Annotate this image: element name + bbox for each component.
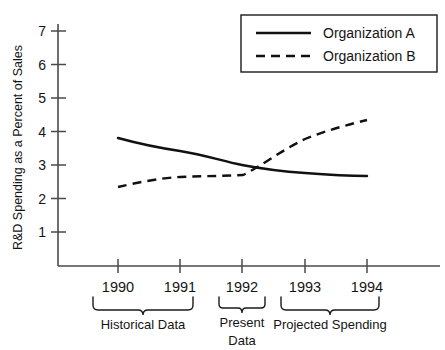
group-annotation-present: Present Data — [219, 297, 265, 348]
brace-projected-icon — [281, 297, 379, 315]
y-tick-label-2: 2 — [38, 191, 46, 207]
group-label-historical: Historical Data — [101, 317, 186, 332]
x-tick-label-1993: 1993 — [289, 279, 321, 295]
group-label-present-line2: Data — [228, 333, 256, 348]
series-line-organization-b — [118, 120, 367, 187]
group-label-projected: Projected Spending — [273, 317, 386, 332]
legend-label-organization-a: Organization A — [323, 25, 415, 41]
chart-container: R&D Spending as a Percent of Sales 7 6 5… — [0, 0, 445, 350]
y-tick-label-3: 3 — [38, 157, 46, 173]
y-tick-label-6: 6 — [38, 57, 46, 73]
brace-present-icon — [219, 297, 265, 313]
y-axis-title-text: R&D Spending as a Percent of Sales — [11, 45, 25, 250]
x-tick-label-1992: 1992 — [226, 279, 258, 295]
group-label-present-line1: Present — [220, 315, 265, 330]
series-line-organization-a — [118, 138, 367, 176]
x-axis-ticks: 1990 1991 1992 1993 1994 — [102, 259, 383, 295]
chart-legend: Organization A Organization B — [241, 15, 437, 72]
y-axis-ticks: 7 6 5 4 3 2 1 — [38, 23, 66, 240]
x-tick-label-1991: 1991 — [164, 279, 196, 295]
x-tick-label-1990: 1990 — [102, 279, 134, 295]
y-tick-label-4: 4 — [38, 124, 46, 140]
y-tick-label-5: 5 — [38, 90, 46, 106]
rd-spending-line-chart: R&D Spending as a Percent of Sales 7 6 5… — [0, 0, 445, 350]
x-tick-label-1994: 1994 — [351, 279, 383, 295]
group-annotation-projected: Projected Spending — [273, 297, 386, 332]
y-axis-title: R&D Spending as a Percent of Sales — [11, 45, 25, 250]
y-tick-label-1: 1 — [38, 224, 46, 240]
legend-label-organization-b: Organization B — [323, 48, 416, 64]
brace-historical-icon — [93, 297, 193, 315]
y-tick-label-7: 7 — [38, 23, 46, 39]
group-annotation-historical: Historical Data — [93, 297, 193, 332]
